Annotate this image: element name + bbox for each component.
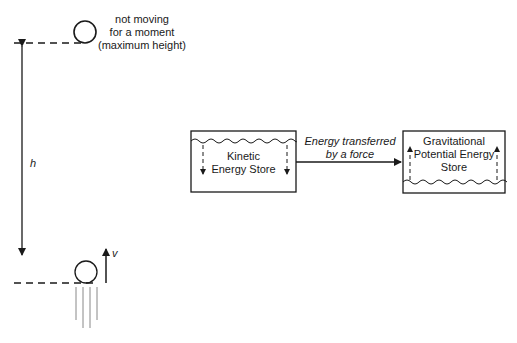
gpe-line3: Store	[403, 161, 505, 174]
top-note-line1: not moving	[96, 13, 188, 26]
velocity-label: v	[112, 247, 118, 260]
ball-top	[74, 21, 96, 43]
transfer-line1: Energy transferred	[300, 135, 400, 148]
ball-bottom	[75, 261, 97, 283]
kinetic-line1: Kinetic	[191, 150, 296, 163]
transfer-label: Energy transferred by a force	[300, 135, 400, 161]
wavy-line	[403, 180, 507, 184]
gpe-store-label: Gravitational Potential Energy Store	[403, 135, 505, 174]
wavy-line	[191, 139, 296, 143]
kinetic-line2: Energy Store	[191, 163, 296, 176]
top-note-line2: for a moment	[96, 26, 188, 39]
top-note-label: not moving for a moment (maximum height)	[96, 13, 188, 52]
top-note-line3: (maximum height)	[96, 39, 188, 52]
bottom-ball-group	[14, 249, 106, 328]
height-label: h	[30, 157, 36, 170]
gpe-line2: Potential Energy	[403, 148, 505, 161]
gpe-line1: Gravitational	[403, 135, 505, 148]
transfer-line2: by a force	[300, 148, 400, 161]
top-ball-group	[14, 21, 96, 43]
kinetic-store-label: Kinetic Energy Store	[191, 150, 296, 176]
